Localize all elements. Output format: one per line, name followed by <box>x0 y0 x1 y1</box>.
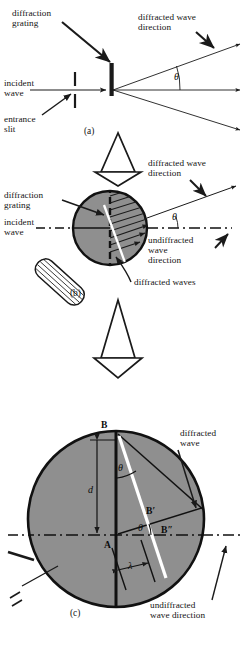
panel-c-point-b: B <box>101 419 107 430</box>
panel-a-diffracted-direction-label: diffracted wave direction <box>138 12 196 32</box>
panel-c-lambda-symbol: λ <box>128 560 132 571</box>
zoom-arrow-b-to-c <box>94 300 142 378</box>
figure-vector-art <box>0 0 246 648</box>
panel-c-d-symbol: d <box>88 484 93 495</box>
panel-c-undiffracted-direction-label: undiffracted wave direction <box>150 600 205 620</box>
zoom-arrow-a-to-b <box>95 133 141 186</box>
panel-a-grating-label: diffraction grating <box>12 8 51 28</box>
panel-c-id: (c) <box>70 608 80 618</box>
panel-a-id: (a) <box>84 126 94 136</box>
panel-c-point-b-prime: B′ <box>146 505 155 516</box>
panel-c-theta-bottom-symbol: θ <box>138 522 143 533</box>
panel-c-point-b-double-prime: B″ <box>161 524 173 535</box>
panel-b-incident-label: incident wave <box>4 217 34 237</box>
panel-c-theta-top-symbol: θ <box>118 462 123 473</box>
panel-a-incident-label: incident wave <box>4 78 34 98</box>
panel-b-diffracted-waves-label: diffracted waves <box>134 277 196 287</box>
panel-c-point-a: A <box>104 539 111 550</box>
panel-c-art <box>8 428 240 610</box>
panel-a-entrance-slit-label: entrance slit <box>4 114 36 134</box>
panel-c-diffracted-wave-label: diffracted wave <box>180 428 216 448</box>
panel-b-diffracted-direction-label: diffracted wave direction <box>148 158 206 178</box>
panel-b-grating-label: diffraction grating <box>4 190 43 210</box>
panel-b-undiffracted-direction-label: undiffracted wave direction <box>148 235 193 266</box>
panel-b-id: (b) <box>70 288 81 298</box>
panel-a-theta-symbol: θ <box>174 71 179 82</box>
panel-b-theta-symbol: θ <box>172 211 177 222</box>
diffraction-grating-figure: diffraction grating incident wave entran… <box>0 0 246 648</box>
panel-a-art <box>30 22 240 130</box>
panel-b-art <box>32 180 236 309</box>
